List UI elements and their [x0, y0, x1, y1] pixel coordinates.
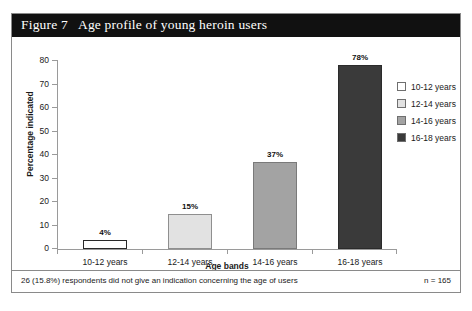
y-axis-line	[57, 61, 58, 250]
bar-label-16-18-years: 78%	[330, 53, 390, 62]
figure-container: Figure 7 Age profile of young heroin use…	[11, 13, 461, 293]
legend-swatch-icon-1	[397, 99, 406, 108]
legend-label-0: 10-12 years	[411, 82, 456, 92]
bar-label-10-12-years: 4%	[75, 228, 135, 237]
legend-swatch-icon-3	[397, 133, 406, 142]
y-tick-label-50: 50	[25, 131, 49, 132]
y-axis-title: Percentage indicated	[25, 74, 35, 194]
bar-10-12-years[interactable]	[83, 240, 127, 249]
legend-item-10-12-years[interactable]: 10-12 years	[397, 78, 456, 95]
legend-item-16-18-years[interactable]: 16-18 years	[397, 129, 456, 146]
x-tick-3	[312, 249, 313, 254]
x-tick-1	[142, 249, 143, 254]
legend-swatch-icon-0	[397, 82, 406, 91]
legend-item-14-16-years[interactable]: 14-16 years	[397, 112, 456, 129]
y-tick-10	[52, 225, 58, 226]
y-tick-60	[52, 107, 58, 108]
bar-12-14-years[interactable]	[168, 214, 212, 249]
y-tick-label-30: 30	[25, 178, 49, 179]
figure-title: Figure 7 Age profile of young heroin use…	[21, 17, 267, 33]
bar-label-12-14-years: 15%	[160, 202, 220, 211]
legend-item-12-14-years[interactable]: 12-14 years	[397, 95, 456, 112]
x-tick-0	[57, 249, 58, 254]
x-tick-4	[396, 249, 397, 254]
y-tick-label-10: 10	[25, 225, 49, 226]
footer-sample-size: n = 165	[424, 276, 451, 285]
y-tick-label-0: 0	[25, 248, 49, 249]
y-tick-label-40: 40	[25, 154, 49, 155]
bar-16-18-years[interactable]	[338, 65, 382, 249]
figure-title-bar: Figure 7 Age profile of young heroin use…	[12, 14, 460, 37]
y-tick-label-80: 80	[25, 60, 49, 61]
legend-label-2: 14-16 years	[411, 116, 456, 126]
chart-area: Percentage indicated 0 10 20 30 40 50 60…	[12, 37, 460, 270]
legend-label-1: 12-14 years	[411, 99, 456, 109]
y-tick-20	[52, 201, 58, 202]
y-tick-label-70: 70	[25, 84, 49, 85]
y-tick-30	[52, 178, 58, 179]
bar-label-14-16-years: 37%	[245, 150, 305, 159]
y-tick-70	[52, 84, 58, 85]
legend-label-3: 16-18 years	[411, 133, 456, 143]
y-tick-50	[52, 131, 58, 132]
y-tick-label-20: 20	[25, 201, 49, 202]
y-tick-40	[52, 154, 58, 155]
y-tick-label-60: 60	[25, 107, 49, 108]
chart-legend: 10-12 years 12-14 years 14-16 years 16-1…	[397, 78, 456, 146]
x-tick-2	[227, 249, 228, 254]
footer-note: 26 (15.8%) respondents did not give an i…	[21, 276, 298, 285]
plot-area: 0 10 20 30 40 50 60 70 80 4%	[57, 61, 397, 250]
legend-swatch-icon-2	[397, 116, 406, 125]
footer-divider	[12, 270, 460, 271]
bar-14-16-years[interactable]	[253, 162, 297, 249]
y-tick-80	[52, 60, 58, 61]
